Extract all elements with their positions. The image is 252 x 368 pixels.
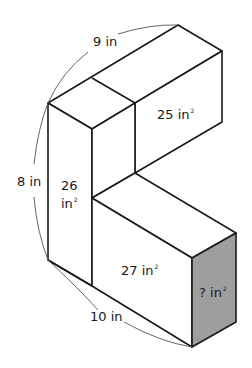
dim-unit: in (105, 34, 117, 49)
area-unit: in (210, 285, 222, 300)
area-unit: in (178, 107, 190, 122)
dim-arc-8in-bottom (34, 197, 48, 260)
area-unit: in (61, 196, 73, 211)
dim-value: 9 (93, 34, 101, 49)
area-unit: in (142, 263, 154, 278)
area-label-shaded-face: ? in2 (199, 286, 227, 299)
area-value: 27 (121, 263, 138, 278)
dim-value: 10 (90, 309, 107, 324)
area-value: 26 (61, 179, 78, 193)
area-label-left-front: 26 in2 (61, 179, 78, 211)
area-label-upper-right: 25 in2 (157, 108, 194, 121)
area-label-lower-front: 27 in2 (121, 264, 158, 277)
dim-value: 8 (17, 174, 25, 189)
area-exponent: 2 (155, 263, 159, 270)
dimension-label-9in: 9 in (92, 35, 118, 48)
dimension-label-8in: 8 in (16, 175, 42, 188)
area-exponent: 2 (191, 107, 195, 114)
area-exponent: 2 (74, 196, 78, 203)
dim-arc-8in-top (34, 103, 48, 164)
dimension-label-10in: 10 in (89, 310, 124, 323)
area-value-unknown: ? (199, 285, 206, 300)
dim-unit: in (29, 174, 41, 189)
dim-unit: in (111, 309, 123, 324)
area-value: 25 (157, 107, 174, 122)
area-exponent: 2 (223, 285, 227, 292)
